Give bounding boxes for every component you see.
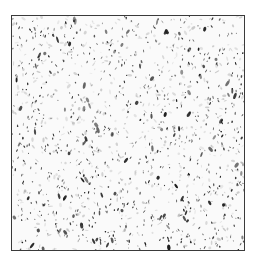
image-frame: [11, 15, 245, 251]
speckle-texture: [12, 16, 244, 250]
